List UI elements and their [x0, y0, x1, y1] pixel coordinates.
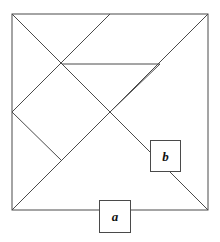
geometry-figure: a b	[0, 0, 220, 242]
label-b-text: b	[162, 149, 169, 162]
label-a-text: a	[112, 210, 119, 223]
label-box-a: a	[99, 200, 131, 233]
label-box-b: b	[150, 140, 181, 172]
